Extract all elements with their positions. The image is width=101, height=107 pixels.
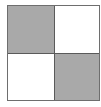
cell-bottom-right [55,54,99,100]
cell-top-right [55,6,99,54]
cell-top-left [8,6,55,54]
checkerboard-grid [7,5,100,101]
cell-bottom-left [8,54,55,100]
